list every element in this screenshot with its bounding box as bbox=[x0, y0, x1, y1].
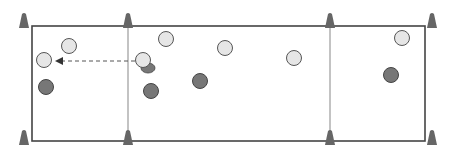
cones bbox=[19, 13, 437, 145]
light-player-icon bbox=[395, 31, 410, 46]
cone-icon bbox=[427, 13, 437, 28]
light-player-icon bbox=[159, 32, 174, 47]
cone-icon bbox=[19, 13, 29, 28]
light-player-icon bbox=[62, 39, 77, 54]
dark-player-icon bbox=[144, 84, 159, 99]
field-diagram bbox=[0, 0, 456, 149]
cone-icon bbox=[325, 130, 335, 145]
light-player-icon bbox=[136, 53, 151, 68]
light-team-players bbox=[37, 31, 410, 68]
cone-icon bbox=[19, 130, 29, 145]
dark-team-players bbox=[39, 68, 399, 99]
dark-player-icon bbox=[384, 68, 399, 83]
drill-diagram bbox=[0, 0, 456, 149]
cone-icon bbox=[123, 13, 133, 28]
dark-player-icon bbox=[193, 74, 208, 89]
cone-icon bbox=[427, 130, 437, 145]
cone-icon bbox=[123, 130, 133, 145]
dark-player-icon bbox=[39, 80, 54, 95]
light-player-icon bbox=[218, 41, 233, 56]
light-player-icon bbox=[37, 53, 52, 68]
cone-icon bbox=[325, 13, 335, 28]
light-player-icon bbox=[287, 51, 302, 66]
